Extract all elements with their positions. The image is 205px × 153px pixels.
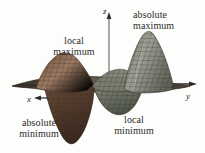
- x-axis: [34, 96, 48, 101]
- annotation-local-minimum: local minimum: [105, 115, 163, 136]
- annotation-absolute-minimum-line2: minimum: [8, 129, 70, 140]
- x-axis-label: x: [27, 95, 31, 104]
- annotation-absolute-minimum-line1: absolute: [8, 118, 70, 129]
- absolute-maximum-peak: [124, 31, 174, 93]
- annotation-absolute-minimum: absolute minimum: [8, 118, 70, 139]
- surface-plot-figure: absolute maximum local maximum absolute …: [0, 0, 205, 153]
- surface-right-tail: [172, 85, 190, 88]
- annotation-absolute-maximum-line2: maximum: [133, 21, 174, 32]
- annotation-local-maximum-line1: local: [47, 36, 101, 47]
- annotation-local-minimum-line1: local: [105, 115, 163, 126]
- annotation-local-maximum: local maximum: [47, 36, 101, 57]
- z-axis-label: z: [103, 7, 107, 16]
- local-maximum-hill: [36, 53, 94, 93]
- annotation-local-maximum-line2: maximum: [47, 47, 101, 58]
- annotation-absolute-maximum: absolute maximum: [133, 10, 174, 31]
- y-axis-label: y: [186, 92, 190, 101]
- annotation-absolute-maximum-line1: absolute: [133, 10, 174, 21]
- annotation-local-minimum-line2: minimum: [105, 126, 163, 137]
